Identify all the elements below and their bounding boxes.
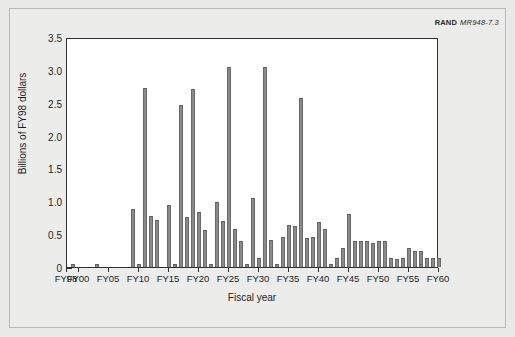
y-tick-label: 1.0 <box>48 197 62 208</box>
bar <box>233 229 238 267</box>
x-tick-label: FY50 <box>367 273 390 284</box>
x-tick-label: FY60 <box>427 273 450 284</box>
bar <box>227 67 232 267</box>
x-tick-label: FY20 <box>187 273 210 284</box>
bar <box>407 248 412 267</box>
bar <box>299 98 304 267</box>
x-tick-mark <box>438 268 439 272</box>
bar <box>305 238 310 267</box>
bar <box>419 264 424 267</box>
y-axis-tick-labels: 00.51.01.52.02.53.03.5 <box>24 38 62 268</box>
figure-root: RANDMR948-7.3 Billions of FY98 dollars 0… <box>0 0 515 337</box>
x-tick-label: FY05 <box>97 273 120 284</box>
x-tick-label: FY30 <box>247 273 270 284</box>
bar <box>209 264 214 267</box>
x-tick-mark <box>168 268 169 272</box>
bar <box>137 264 142 267</box>
y-tick-label: 3.5 <box>48 33 62 44</box>
bar <box>389 258 394 267</box>
x-axis-title: Fiscal year <box>66 292 438 303</box>
bar <box>143 88 148 267</box>
x-tick-label: FY00 <box>67 273 90 284</box>
plot-area <box>66 38 438 268</box>
y-tick-label: 2.0 <box>48 131 62 142</box>
bar <box>221 221 226 267</box>
x-tick-mark <box>138 268 139 272</box>
bar <box>269 240 274 267</box>
rand-logo-text: RAND <box>435 18 457 27</box>
bar <box>329 264 334 267</box>
x-axis-tick-labels: FY98FY00FY05FY10FY15FY20FY25FY30FY35FY40… <box>66 273 438 287</box>
bar <box>425 258 430 267</box>
x-tick-label: FY55 <box>397 273 420 284</box>
bar <box>191 89 196 267</box>
bar <box>287 225 292 267</box>
bar <box>95 264 100 267</box>
x-tick-mark <box>348 268 349 272</box>
bar <box>395 259 400 267</box>
bar <box>257 258 262 267</box>
bar <box>173 264 178 267</box>
x-tick-label: FY15 <box>157 273 180 284</box>
rand-credit-line: RANDMR948-7.3 <box>435 18 499 27</box>
y-tick-label: 1.5 <box>48 164 62 175</box>
bar <box>197 212 202 267</box>
bar <box>245 264 250 267</box>
bar <box>239 241 244 267</box>
bar <box>431 258 436 267</box>
x-tick-label: FY35 <box>277 273 300 284</box>
bar <box>263 67 268 267</box>
bar <box>131 209 136 267</box>
bar <box>275 264 280 267</box>
bar <box>347 214 352 267</box>
bar <box>251 198 256 267</box>
x-tick-mark <box>258 268 259 272</box>
x-tick-mark <box>318 268 319 272</box>
bar <box>293 226 298 267</box>
y-tick-label: 0.5 <box>48 230 62 241</box>
bar-series <box>67 39 437 267</box>
bar <box>377 241 382 267</box>
x-tick-mark <box>378 268 379 272</box>
bar <box>335 258 340 267</box>
x-tick-mark <box>78 268 79 272</box>
bar <box>323 229 328 267</box>
bar <box>71 264 76 267</box>
x-tick-mark <box>108 268 109 272</box>
bar <box>401 258 406 267</box>
x-tick-mark <box>66 268 67 272</box>
bar <box>383 241 388 267</box>
bar <box>167 205 172 267</box>
y-tick-label: 3.0 <box>48 65 62 76</box>
bar <box>371 243 376 267</box>
bar <box>311 237 316 267</box>
x-tick-label: FY25 <box>217 273 240 284</box>
bar <box>437 258 442 267</box>
bar <box>359 241 364 267</box>
y-tick-label: 0 <box>56 263 62 274</box>
x-tick-mark <box>228 268 229 272</box>
figure-code: MR948-7.3 <box>460 18 499 27</box>
bar <box>185 217 190 267</box>
bar <box>281 237 286 267</box>
bar <box>341 248 346 267</box>
y-tick-label: 2.5 <box>48 98 62 109</box>
x-tick-mark <box>198 268 199 272</box>
x-tick-label: FY10 <box>127 273 150 284</box>
bar <box>203 230 208 267</box>
bar <box>149 216 154 267</box>
x-tick-label: FY40 <box>307 273 330 284</box>
bar <box>155 220 160 267</box>
x-tick-label: FY45 <box>337 273 360 284</box>
bar <box>365 241 370 267</box>
x-tick-mark <box>408 268 409 272</box>
bar <box>179 105 184 267</box>
bar <box>215 202 220 267</box>
bar <box>317 222 322 267</box>
bar <box>413 251 418 267</box>
bar <box>353 241 358 267</box>
x-tick-mark <box>288 268 289 272</box>
